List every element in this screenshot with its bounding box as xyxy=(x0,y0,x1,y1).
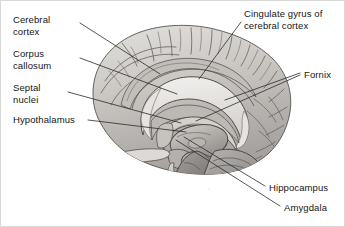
label-cingulate-gyrus: Cingulate gyrus of cerebral cortex xyxy=(244,8,322,31)
label-amygdala: Amygdala xyxy=(284,202,327,214)
label-fornix: Fornix xyxy=(304,69,331,81)
label-cerebral-cortex: Cerebral cortex xyxy=(13,14,50,37)
label-corpus-callosum: Corpus callosum xyxy=(13,48,51,71)
brain-diagram-figure: Cerebral cortex Corpus callosum Septal n… xyxy=(0,0,345,227)
label-hypothalamus: Hypothalamus xyxy=(13,114,75,126)
label-septal-nuclei: Septal nuclei xyxy=(13,82,41,105)
label-hippocampus: Hippocampus xyxy=(269,182,328,194)
